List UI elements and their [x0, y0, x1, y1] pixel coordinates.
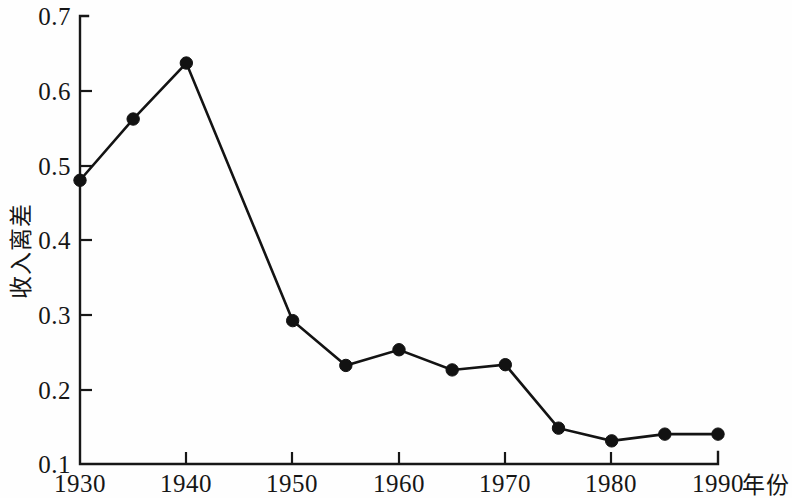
data-point [180, 57, 192, 69]
data-point [605, 435, 617, 447]
data-point [127, 113, 139, 125]
x-tick-label: 1940 [160, 470, 212, 497]
y-axis-tick-labels: 0.7 0.6 0.5 0.4 0.3 0.2 0.1 [38, 3, 71, 478]
data-point [74, 174, 86, 186]
data-point [659, 428, 671, 440]
x-tick-label: 1970 [479, 470, 531, 497]
y-tick-label: 0.6 [38, 78, 71, 105]
y-tick-label: 0.5 [38, 153, 71, 180]
data-series-markers [74, 57, 724, 447]
x-axis-tick-labels: 1930 1940 1950 1960 1970 1980 1990 [54, 470, 744, 497]
data-series-line [80, 63, 718, 441]
x-axis-tick-marks [186, 452, 611, 464]
x-tick-label: 1980 [585, 470, 637, 497]
y-tick-label: 0.7 [38, 3, 71, 30]
x-tick-label: 1930 [54, 470, 106, 497]
y-tick-label: 0.2 [38, 377, 71, 404]
data-point [286, 314, 298, 326]
data-point [499, 358, 511, 370]
y-axis-tick-marks [80, 91, 92, 390]
data-point [712, 428, 724, 440]
x-tick-label: 1990 [692, 470, 744, 497]
data-point [552, 422, 564, 434]
axis-frame-path [80, 16, 718, 464]
data-point [446, 364, 458, 376]
axis-spines [80, 16, 718, 464]
data-point [393, 344, 405, 356]
x-tick-label: 1950 [266, 470, 318, 497]
data-point [340, 359, 352, 371]
y-tick-label: 0.4 [38, 227, 71, 254]
chart-container: 0.7 0.6 0.5 0.4 0.3 0.2 0.1 1930 1940 19… [0, 0, 792, 498]
x-tick-label: 1960 [373, 470, 425, 497]
line-chart-svg: 0.7 0.6 0.5 0.4 0.3 0.2 0.1 1930 1940 19… [0, 0, 792, 498]
y-tick-label: 0.3 [38, 302, 71, 329]
